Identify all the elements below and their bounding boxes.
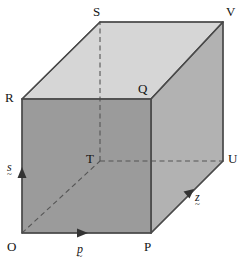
vertex-label-Q: Q xyxy=(138,82,148,95)
vertex-label-T: T xyxy=(86,152,94,165)
vertex-label-P: P xyxy=(144,240,151,253)
vertex-label-S: S xyxy=(93,5,100,18)
axis-label-p: p ~ xyxy=(77,243,83,258)
axis-label-z-glyph: z xyxy=(195,191,200,203)
vertex-label-V: V xyxy=(226,5,236,18)
vertex-label-U: U xyxy=(228,152,238,165)
cuboid-diagram-svg xyxy=(0,0,243,262)
axis-label-s-glyph: s xyxy=(7,161,12,173)
vertex-label-R: R xyxy=(5,91,14,104)
axis-label-z: z ~ xyxy=(195,191,200,206)
cuboid-figure: S V R Q T U O P p ~ s ~ z ~ xyxy=(0,0,243,262)
vertex-label-O: O xyxy=(7,240,17,253)
axis-label-s: s ~ xyxy=(7,161,12,176)
axis-label-p-glyph: p xyxy=(77,243,83,255)
front-face xyxy=(22,99,151,233)
